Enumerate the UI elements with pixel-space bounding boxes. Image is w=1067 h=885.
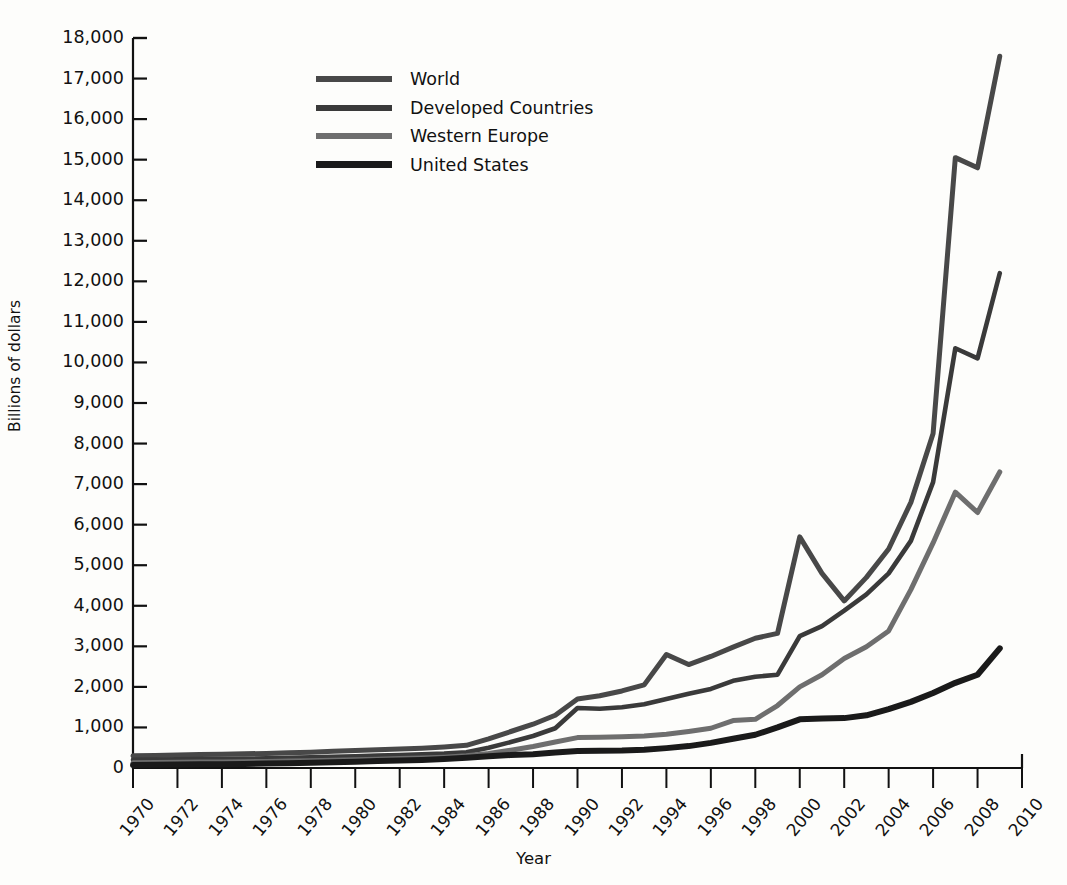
y-tick-label: 1,000	[73, 716, 124, 736]
legend-item: United States	[316, 151, 593, 180]
y-tick-label: 5,000	[73, 554, 124, 574]
y-tick-label: 14,000	[62, 189, 124, 209]
y-tick-label: 9,000	[73, 392, 124, 412]
y-tick-label: 2,000	[73, 676, 124, 696]
y-tick-label: 4,000	[73, 595, 124, 615]
series-line-developed-countries	[133, 273, 1000, 760]
legend-color-swatch	[316, 76, 392, 82]
legend-item: Developed Countries	[316, 94, 593, 123]
legend-item: World	[316, 65, 593, 94]
x-tick-marks	[133, 768, 1022, 788]
y-tick-label: 17,000	[62, 68, 124, 88]
legend-label: United States	[410, 155, 529, 175]
y-tick-label: 8,000	[73, 433, 124, 453]
legend-item: Western Europe	[316, 122, 593, 151]
y-tick-label: 6,000	[73, 514, 124, 534]
legend-color-swatch	[316, 105, 392, 111]
y-tick-label: 11,000	[62, 311, 124, 331]
y-axis-title: Billions of dollars	[6, 300, 24, 432]
y-tick-label: 18,000	[62, 27, 124, 47]
y-tick-marks	[133, 38, 147, 727]
legend-label: Developed Countries	[410, 98, 593, 118]
chart-container: 01,0002,0003,0004,0005,0006,0007,0008,00…	[0, 0, 1067, 885]
x-axis-title: Year	[0, 849, 1067, 868]
y-tick-label: 15,000	[62, 149, 124, 169]
chart-legend: WorldDeveloped CountriesWestern EuropeUn…	[316, 65, 593, 179]
legend-label: Western Europe	[410, 126, 549, 146]
y-tick-label: 10,000	[62, 351, 124, 371]
y-tick-label: 12,000	[62, 270, 124, 290]
y-tick-label: 16,000	[62, 108, 124, 128]
y-tick-label: 0	[113, 757, 124, 777]
y-tick-label: 3,000	[73, 635, 124, 655]
legend-label: World	[410, 69, 460, 89]
y-tick-label: 7,000	[73, 473, 124, 493]
y-tick-label: 13,000	[62, 230, 124, 250]
legend-color-swatch	[316, 133, 392, 139]
legend-color-swatch	[316, 161, 392, 168]
